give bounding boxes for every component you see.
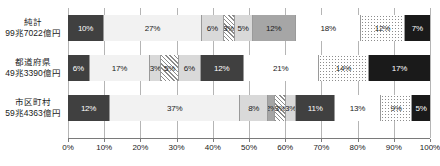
bar-segment[interactable]: 27% [104,15,202,41]
segment-value-label: 12% [266,24,281,33]
bar-segment[interactable]: 10% [68,15,104,41]
stacked-bar: 6%17%3%5%6%12%21%14%17% [68,55,430,81]
bar-segment[interactable]: 5% [161,55,179,81]
x-tick-mark [177,139,178,142]
segment-value-label: 5% [164,64,175,73]
segment-value-label: 12% [375,24,390,33]
bar-segment[interactable]: 3% [150,55,161,81]
segment-value-label: 6% [207,24,218,33]
segment-value-label: 3% [224,24,235,33]
bar-segment[interactable]: 37% [110,95,240,121]
segment-value-label: 5% [237,24,248,33]
bar-segment[interactable]: 9% [381,95,413,121]
segment-value-label: 10% [78,24,93,33]
segment-value-label: 12% [81,104,96,113]
segment-value-label: 18% [320,24,335,33]
segment-value-label: 11% [308,104,323,113]
x-tick-mark [430,139,431,142]
x-tick-label: 30% [169,143,185,152]
bar-segment[interactable]: 6% [202,15,224,41]
bar-segment[interactable]: 3% [286,95,297,121]
segment-value-label: 27% [145,24,160,33]
x-tick-label: 70% [313,143,329,152]
x-tick-mark [358,139,359,142]
bar-segment[interactable]: 12% [361,15,404,41]
segment-value-label: 3% [275,104,285,113]
x-tick-mark [285,139,286,142]
x-tick-label: 90% [386,143,402,152]
chart-row: 市区町村59兆4363億円12%37%8%2%3%3%11%13%9%5% [0,88,436,128]
category-amount: 49兆3390億円 [0,68,66,79]
x-tick-mark [104,139,105,142]
x-tick-label: 20% [132,143,148,152]
x-tick-label: 0% [62,143,74,152]
category-name: 市区町村 [0,97,66,108]
segment-value-label: 7% [412,24,423,33]
segment-value-label: 6% [184,64,195,73]
bar-segment[interactable]: 21% [244,55,319,81]
bar-segment[interactable]: 17% [90,55,151,81]
category-amount: 59兆4363億円 [0,108,66,119]
bar-segment[interactable]: 3% [275,95,286,121]
category-label: 市区町村59兆4363億円 [0,97,68,119]
bar-segment[interactable]: 12% [201,55,244,81]
segment-value-label: 3% [150,64,160,73]
segment-value-label: 17% [112,64,127,73]
segment-value-label: 8% [248,104,259,113]
bar-segment[interactable]: 12% [253,15,296,41]
x-tick-label: 10% [96,143,112,152]
x-tick-mark [249,139,250,142]
segment-value-label: 14% [336,64,351,73]
bar-segment[interactable]: 8% [240,95,268,121]
x-tick-mark [394,139,395,142]
chart-row: 純計99兆7022億円10%27%6%3%5%12%18%12%7% [0,8,436,48]
bar-segment[interactable]: 18% [296,15,361,41]
segment-value-label: 6% [73,64,84,73]
chart-plot-area: 純計99兆7022億円10%27%6%3%5%12%18%12%7%都道府県49… [0,8,436,128]
bar-segment[interactable]: 6% [68,55,90,81]
bar-segment[interactable]: 7% [405,15,430,41]
bar-segment[interactable]: 12% [68,95,110,121]
bar-segment[interactable]: 3% [224,15,235,41]
x-tick-label: 40% [205,143,221,152]
x-tick-label: 50% [241,143,257,152]
x-tick-mark [68,139,69,142]
x-tick-label: 80% [350,143,366,152]
stacked-bar: 12%37%8%2%3%3%11%13%9%5% [68,95,430,121]
category-name: 純計 [0,17,66,28]
segment-value-label: 13% [350,104,365,113]
category-name: 都道府県 [0,57,66,68]
segment-value-label: 2% [268,104,275,113]
segment-value-label: 12% [214,64,229,73]
bar-segment[interactable]: 13% [335,95,381,121]
x-tick-label: 60% [277,143,293,152]
category-label: 純計99兆7022億円 [0,17,68,39]
x-tick-mark [213,139,214,142]
category-amount: 99兆7022億円 [0,28,66,39]
bar-segment[interactable]: 5% [235,15,253,41]
bar-segment[interactable]: 17% [369,55,430,81]
stacked-bar: 10%27%6%3%5%12%18%12%7% [68,15,430,41]
x-tick-mark [140,139,141,142]
segment-value-label: 3% [286,104,296,113]
bar-segment[interactable]: 6% [179,55,201,81]
x-tick-mark [321,139,322,142]
x-axis-ticks: 0%10%20%30%40%50%60%70%80%90%100% [68,139,430,159]
category-label: 都道府県49兆3390億円 [0,57,68,79]
segment-value-label: 5% [416,104,427,113]
segment-value-label: 37% [167,104,182,113]
bar-segment[interactable]: 2% [268,95,275,121]
bar-segment[interactable]: 14% [319,55,369,81]
x-tick-label: 100% [420,143,440,152]
bar-segment[interactable]: 11% [296,95,335,121]
segment-value-label: 9% [391,104,402,113]
segment-value-label: 21% [273,64,288,73]
chart-row: 都道府県49兆3390億円6%17%3%5%6%12%21%14%17% [0,48,436,88]
segment-value-label: 17% [392,64,407,73]
bar-segment[interactable]: 5% [412,95,430,121]
